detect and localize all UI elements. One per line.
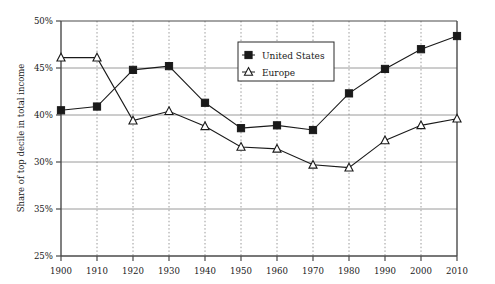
data-point-united-states xyxy=(237,125,244,132)
x-tick-label: 1950 xyxy=(230,266,252,276)
y-axis-title: Share of top decile in total income xyxy=(16,64,26,213)
x-tick-label: 1930 xyxy=(158,266,180,276)
y-tick-label: 45% xyxy=(34,63,53,73)
x-tick-label: 1920 xyxy=(122,266,144,276)
data-point-united-states xyxy=(129,66,136,73)
y-tick-label: 30% xyxy=(34,157,53,167)
legend-label: Europe xyxy=(262,68,295,78)
chart-figure: 50%45%40%30%35%25% 190019101920193019401… xyxy=(0,0,495,284)
income-share-line-chart: 50%45%40%30%35%25% 190019101920193019401… xyxy=(0,0,495,284)
legend-marker xyxy=(245,51,252,58)
data-point-united-states xyxy=(201,99,208,106)
y-tick-label: 35% xyxy=(34,204,53,214)
data-point-united-states xyxy=(165,63,172,70)
x-tick-label: 1910 xyxy=(86,266,108,276)
chart-legend: United StatesEurope xyxy=(238,42,334,81)
data-point-united-states xyxy=(309,126,316,133)
data-point-united-states xyxy=(453,32,460,39)
x-tick-label: 1970 xyxy=(302,266,324,276)
x-tick-label: 1900 xyxy=(50,266,72,276)
legend-label: United States xyxy=(262,51,325,61)
y-tick-label: 50% xyxy=(34,16,53,26)
x-tick-label: 1990 xyxy=(374,266,396,276)
x-tick-label: 2010 xyxy=(446,266,468,276)
data-point-united-states xyxy=(93,103,100,110)
data-point-united-states xyxy=(345,90,352,97)
data-point-united-states xyxy=(381,65,388,72)
x-tick-label: 1940 xyxy=(194,266,216,276)
x-tick-label: 1980 xyxy=(338,266,360,276)
data-point-united-states xyxy=(417,46,424,53)
x-tick-label: 2000 xyxy=(410,266,432,276)
data-point-united-states xyxy=(57,107,64,114)
x-tick-label: 1960 xyxy=(266,266,288,276)
y-tick-label: 40% xyxy=(34,110,53,120)
data-point-united-states xyxy=(273,122,280,129)
y-tick-label: 25% xyxy=(34,251,53,261)
